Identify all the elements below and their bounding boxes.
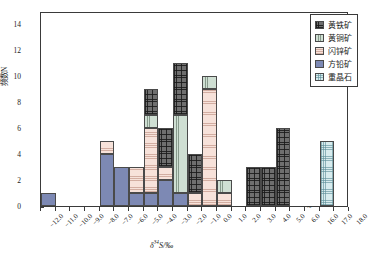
bar-segment <box>158 167 173 180</box>
x-axis-tick-mark <box>99 207 100 211</box>
bar-segment <box>144 89 159 115</box>
x-axis-tick-mark <box>128 207 129 211</box>
bar-segment <box>100 154 115 206</box>
legend-label: 黄铜矿 <box>328 32 352 43</box>
x-axis-tick-mark <box>304 207 305 211</box>
legend-label: 黄铁矿 <box>328 19 352 30</box>
axis-break-marker: ~ <box>307 203 311 212</box>
x-axis-tick-label: −3.0 <box>180 213 194 227</box>
x-axis-tick-mark <box>172 207 173 211</box>
bar-segment <box>114 167 129 206</box>
bar-segment <box>320 141 335 206</box>
x-axis-tick-label: 5.0 <box>296 213 307 224</box>
bar-segment <box>276 128 291 206</box>
bar-segment <box>144 115 159 128</box>
x-axis-tick-label: 18.0 <box>356 213 369 227</box>
bar-segment <box>246 167 261 206</box>
x-axis-tick-mark <box>157 207 158 211</box>
x-axis-label: δ34S/‰ <box>150 239 173 250</box>
y-axis-tick-label: 8 <box>0 99 21 107</box>
x-axis-tick-label: 1.0 <box>237 213 248 224</box>
bar-segment <box>188 193 203 206</box>
x-axis-tick-mark <box>348 207 349 211</box>
legend-item-sphalerite[interactable]: 闪锌矿 <box>315 44 352 57</box>
bar-segment <box>202 89 217 206</box>
x-axis-tick-label: −1.0 <box>209 213 223 227</box>
x-axis-tick-mark <box>231 207 232 211</box>
legend-label: 重晶石 <box>328 71 352 82</box>
x-axis-tick-label: 2.0 <box>252 213 263 224</box>
legend-item-pyrite[interactable]: 黄铁矿 <box>315 18 352 31</box>
x-axis-tick-mark <box>69 207 70 211</box>
legend-swatch-icon <box>315 60 324 68</box>
bar-segment <box>173 63 188 115</box>
x-axis-tick-label: 4.0 <box>281 213 292 224</box>
plot-area <box>40 12 348 207</box>
x-axis-tick-label: 17.0 <box>341 213 355 227</box>
bar-segment <box>173 115 188 193</box>
x-axis-tick-mark <box>216 207 217 211</box>
y-axis-tick-label: 6 <box>0 125 21 133</box>
legend-item-galena[interactable]: 方铅矿 <box>315 57 352 70</box>
x-axis-tick-label: −8.0 <box>106 213 120 227</box>
x-axis-tick-mark <box>55 207 56 211</box>
x-axis-tick-mark <box>319 207 320 211</box>
x-axis-tick-mark <box>201 207 202 211</box>
y-axis-tick-label: 0 <box>0 203 21 211</box>
x-axis-tick-label: −4.0 <box>165 213 179 227</box>
legend: 黄铁矿黄铜矿闪锌矿方铅矿重晶石 <box>310 14 358 87</box>
bar-segment <box>158 180 173 206</box>
legend-swatch-icon <box>315 34 324 42</box>
x-axis-tick-mark <box>40 207 41 211</box>
legend-swatch-icon <box>315 47 324 55</box>
y-axis-tick-label: 2 <box>0 177 21 185</box>
x-axis-tick-label: −12.0 <box>49 213 65 229</box>
x-axis-tick-label: 0.0 <box>223 213 234 224</box>
bar-segment <box>158 128 173 167</box>
x-axis-tick-mark <box>84 207 85 211</box>
legend-label: 方铅矿 <box>328 58 352 69</box>
bar-segment <box>129 193 144 206</box>
legend-item-barite[interactable]: 重晶石 <box>315 70 352 83</box>
x-axis-tick-mark <box>275 207 276 211</box>
legend-item-chalcopyrite[interactable]: 黄铜矿 <box>315 31 352 44</box>
bar-segment <box>144 128 159 193</box>
x-axis-tick-mark <box>187 207 188 211</box>
x-axis-tick-label: −5.0 <box>150 213 164 227</box>
x-axis-tick-mark <box>333 207 334 211</box>
x-axis-tick-label: −7.0 <box>121 213 135 227</box>
x-axis-tick-label: −9.0 <box>92 213 106 227</box>
bar-segment <box>129 167 144 193</box>
x-axis-tick-mark <box>143 207 144 211</box>
bar-segment <box>41 193 56 206</box>
bar-segment <box>217 180 232 193</box>
bar-segment <box>173 193 188 206</box>
bar-segment <box>202 76 217 89</box>
bar-segment <box>261 167 276 206</box>
x-axis-tick-label: 6.0 <box>311 213 322 224</box>
y-axis-tick-label: 4 <box>0 151 21 159</box>
y-axis-tick-label: 12 <box>0 47 21 55</box>
bar-segment <box>217 193 232 206</box>
legend-swatch-icon <box>315 73 324 81</box>
x-axis-tick-mark <box>260 207 261 211</box>
x-axis-tick-label: 3.0 <box>267 213 278 224</box>
x-axis-tick-label: −6.0 <box>136 213 150 227</box>
legend-swatch-icon <box>315 21 324 29</box>
bar-segment <box>188 154 203 193</box>
legend-label: 闪锌矿 <box>328 45 352 56</box>
bar-segment <box>100 141 115 154</box>
x-axis-tick-mark <box>245 207 246 211</box>
y-axis-tick-label: 10 <box>0 73 21 81</box>
x-axis-tick-mark <box>113 207 114 211</box>
bar-segment <box>144 193 159 206</box>
x-axis-tick-label: 16.0 <box>326 213 340 227</box>
x-axis-tick-mark <box>289 207 290 211</box>
y-axis-tick-label: 14 <box>0 21 21 29</box>
x-axis-tick-label: −2.0 <box>194 213 208 227</box>
x-axis-tick-label: −11.0 <box>63 213 79 229</box>
